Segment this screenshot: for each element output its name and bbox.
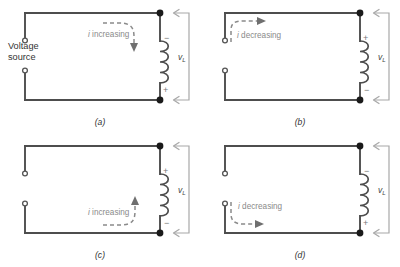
polarity-bottom-c: − <box>164 218 169 228</box>
node-top-c <box>157 143 164 150</box>
source-terminal-bottom-b <box>223 68 228 73</box>
source-terminal-top-b <box>223 38 228 43</box>
node-top-b <box>357 10 364 17</box>
voltage-source-label-line1-a: Voltage <box>8 41 39 51</box>
current-label-b-rest: decreasing <box>239 31 282 40</box>
voltage-label-d-sub: L <box>382 189 386 196</box>
node-bottom-b <box>357 97 364 104</box>
polarity-top-a: − <box>164 33 169 43</box>
current-arrowhead-d <box>255 220 264 228</box>
current-label-d: i decreasing <box>238 202 283 211</box>
polarity-bottom-d: + <box>363 218 368 228</box>
source-terminal-top-d <box>223 171 228 176</box>
voltage-label-c-sub: L <box>182 189 186 196</box>
inductor-polarity-figure: i increasing Voltage source vL − + (a) i… <box>0 0 400 267</box>
voltage-label-d: vL <box>378 185 386 196</box>
current-arrowhead-a <box>130 43 138 52</box>
panel-caption-d: (d) <box>295 250 306 260</box>
node-bottom-a <box>157 97 164 104</box>
current-label-a-rest: increasing <box>90 30 130 39</box>
panel-caption-c: (c) <box>95 250 105 260</box>
panel-caption-a: (a) <box>95 117 106 127</box>
inductor-coil-c <box>160 174 168 216</box>
polarity-top-d: − <box>364 166 369 176</box>
node-top-a <box>157 10 164 17</box>
source-terminal-bottom-a <box>23 68 28 73</box>
source-terminal-bottom-c <box>23 201 28 206</box>
current-label-c: i increasing <box>88 208 130 217</box>
source-terminal-top-c <box>23 171 28 176</box>
voltage-source-label-line2-a: source <box>8 52 36 62</box>
voltage-label-c: vL <box>178 185 186 196</box>
source-terminal-bottom-d <box>223 201 228 206</box>
voltage-label-a-sub: L <box>182 56 186 63</box>
circuit-panel-a: i increasing Voltage source vL − + (a) <box>0 0 200 134</box>
circuit-panel-c: i increasing vL + − (c) <box>0 133 200 267</box>
inductor-coil-b <box>360 41 368 83</box>
polarity-bottom-b: − <box>364 85 369 95</box>
polarity-top-c: + <box>163 166 168 176</box>
voltage-label-b-sub: L <box>382 56 386 63</box>
inductor-coil-a <box>160 41 168 83</box>
current-arrowhead-c <box>131 196 139 205</box>
circuit-panel-b: i decreasing vL + − (b) <box>200 0 400 134</box>
inductor-coil-d <box>360 174 368 216</box>
voltage-label-b: vL <box>378 52 386 63</box>
node-top-d <box>357 143 364 150</box>
polarity-top-b: + <box>363 33 368 43</box>
polarity-bottom-a: + <box>163 85 168 95</box>
panel-caption-b: (b) <box>295 117 306 127</box>
current-label-b: i decreasing <box>237 31 282 40</box>
current-label-a: i increasing <box>88 30 130 39</box>
circuit-panel-d: i decreasing vL − + (d) <box>200 133 400 267</box>
current-label-d-rest: decreasing <box>240 202 283 211</box>
current-arrowhead-b <box>257 17 266 25</box>
voltage-label-a: vL <box>178 52 186 63</box>
node-bottom-c <box>157 230 164 237</box>
node-bottom-d <box>357 230 364 237</box>
current-label-c-rest: increasing <box>90 208 130 217</box>
